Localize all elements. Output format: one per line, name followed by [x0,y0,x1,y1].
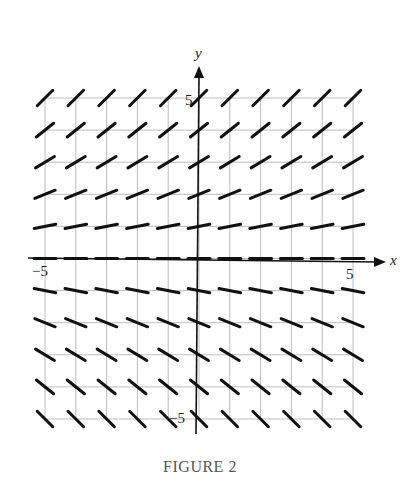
slope-segment [342,224,364,228]
axes [28,66,386,434]
y-min-tick-label: −5 [169,411,185,426]
y-max-tick-label: 5 [185,93,193,108]
slope-segment [219,224,241,228]
slope-field-plot [0,0,415,477]
slope-segment [342,288,364,292]
slope-segment [157,288,179,292]
slope-segment [188,224,210,228]
slope-segment [96,224,118,228]
x-axis-label: x [390,253,397,268]
slope-segment [157,224,179,228]
slope-segment [281,224,303,228]
slope-segment [250,288,272,292]
slope-segment [65,288,87,292]
figure-caption: FIGURE 2 [0,458,400,476]
slope-segment [127,288,149,292]
slope-segment [65,224,87,228]
slope-segment [311,224,333,228]
slope-segment [250,224,272,228]
x-min-tick-label: −5 [32,264,48,279]
x-max-tick-label: 5 [346,267,354,282]
slope-segment [34,288,56,292]
x-axis-arrow-icon [374,257,386,267]
slope-segment [311,288,333,292]
slope-segment [34,224,56,228]
slope-segment [188,288,210,292]
y-axis-arrow-icon [194,66,204,78]
slope-segment [96,288,118,292]
slope-segment [219,288,241,292]
y-axis-label: y [195,46,202,61]
slope-segment [281,288,303,292]
slope-segment [127,224,149,228]
